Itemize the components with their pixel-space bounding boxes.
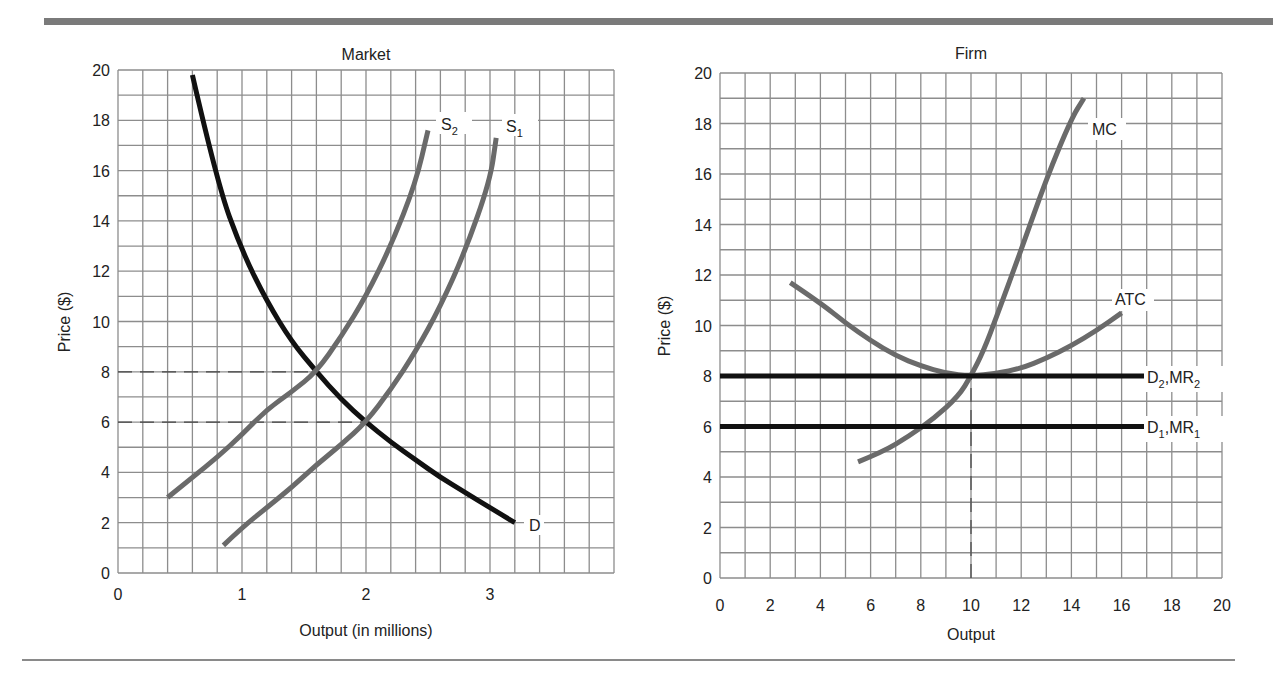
y-tick-label: 18	[694, 116, 712, 133]
y-tick-label: 18	[92, 112, 110, 129]
x-tick-label: 18	[1163, 597, 1181, 614]
y-tick-label: 16	[92, 163, 110, 180]
y-tick-label: 0	[703, 570, 712, 587]
x-tick-label: 4	[816, 597, 825, 614]
x-tick-label: 20	[1213, 597, 1231, 614]
x-tick-label: 14	[1063, 597, 1081, 614]
y-tick-label: 0	[101, 565, 110, 582]
x-tick-label: 6	[866, 597, 875, 614]
y-tick-label: 12	[694, 267, 712, 284]
x-tick-label: 10	[962, 597, 980, 614]
y-tick-label: 2	[703, 520, 712, 537]
x-tick-label: 12	[1012, 597, 1030, 614]
y-tick-label: 10	[694, 318, 712, 335]
y-tick-label: 4	[703, 469, 712, 486]
y-tick-label: 12	[92, 263, 110, 280]
firm-y-ticks: 02468101214161820	[694, 65, 712, 587]
y-tick-label: 14	[694, 217, 712, 234]
x-tick-label: 0	[114, 586, 123, 603]
y-tick-label: 20	[694, 65, 712, 82]
d-curve	[192, 75, 514, 523]
market-y-ticks: 02468101214161820	[92, 62, 110, 582]
y-tick-label: 16	[694, 166, 712, 183]
firm-x-label: Output	[947, 626, 996, 643]
y-tick-label: 6	[101, 414, 110, 431]
firm-title: Firm	[955, 45, 987, 62]
atc-label: ATC	[1115, 291, 1146, 308]
firm-x-ticks: 02468101214161820	[716, 597, 1231, 614]
y-tick-label: 4	[101, 464, 110, 481]
y-tick-label: 14	[92, 213, 110, 230]
x-tick-label: 2	[766, 597, 775, 614]
firm-series	[720, 98, 1147, 578]
x-tick-label: 8	[916, 597, 925, 614]
x-tick-label: 2	[362, 586, 371, 603]
firm-chart: 02468101214161820 02468101214161820 Firm…	[656, 45, 1236, 643]
x-tick-label: 0	[716, 597, 725, 614]
market-x-label: Output (in millions)	[299, 622, 432, 639]
firm-y-label: Price ($)	[656, 296, 673, 356]
x-tick-label: 1	[238, 586, 247, 603]
market-chart: 02468101214161820 0123 Market Output (in…	[56, 46, 614, 639]
y-tick-label: 6	[703, 419, 712, 436]
y-tick-label: 8	[101, 364, 110, 381]
y-tick-label: 2	[101, 515, 110, 532]
market-title: Market	[342, 46, 391, 63]
market-y-label: Price ($)	[56, 292, 73, 352]
y-tick-label: 10	[92, 314, 110, 331]
y-tick-label: 20	[92, 62, 110, 79]
market-grid	[118, 70, 614, 573]
y-tick-label: 8	[703, 368, 712, 385]
mc-label: MC	[1092, 121, 1117, 138]
x-tick-label: 16	[1113, 597, 1131, 614]
market-x-ticks: 0123	[114, 586, 495, 603]
charts-canvas: 02468101214161820 0123 Market Output (in…	[0, 0, 1273, 691]
x-tick-label: 3	[486, 586, 495, 603]
d-label: D	[529, 517, 541, 534]
